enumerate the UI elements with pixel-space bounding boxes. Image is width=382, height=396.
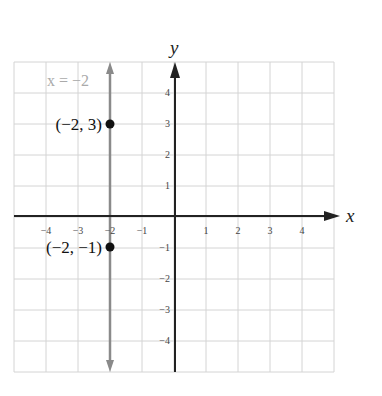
svg-text:−1: −1 [159, 242, 170, 253]
svg-text:−3: −3 [73, 225, 84, 236]
point-label-neg2-neg1: (−2, −1) [46, 238, 102, 257]
x-tick-labels: −4 −3 −2 −1 1 2 3 4 [41, 225, 305, 236]
svg-text:−4: −4 [41, 225, 52, 236]
svg-text:2: 2 [165, 149, 170, 160]
svg-text:−2: −2 [105, 225, 116, 236]
svg-text:1: 1 [204, 225, 209, 236]
svg-text:−1: −1 [137, 225, 148, 236]
point-label-neg2-3: (−2, 3) [56, 115, 102, 134]
svg-text:−2: −2 [159, 273, 170, 284]
svg-text:3: 3 [165, 118, 170, 129]
coordinate-plane: x y −4 −3 −2 −1 1 2 3 4 4 3 2 1 −1 −2 −3… [0, 0, 382, 396]
line-equation-label: x = −2 [47, 72, 89, 89]
svg-text:4: 4 [300, 225, 305, 236]
svg-text:1: 1 [165, 180, 170, 191]
svg-text:−4: −4 [159, 335, 170, 346]
y-axis-label: y [168, 37, 179, 58]
point-neg2-3 [106, 120, 115, 129]
svg-text:−3: −3 [159, 304, 170, 315]
x-axis-label: x [345, 205, 355, 226]
x-axis [14, 211, 340, 221]
svg-text:3: 3 [268, 225, 273, 236]
svg-text:2: 2 [236, 225, 241, 236]
point-neg2-neg1 [106, 243, 115, 252]
svg-text:4: 4 [165, 87, 170, 98]
